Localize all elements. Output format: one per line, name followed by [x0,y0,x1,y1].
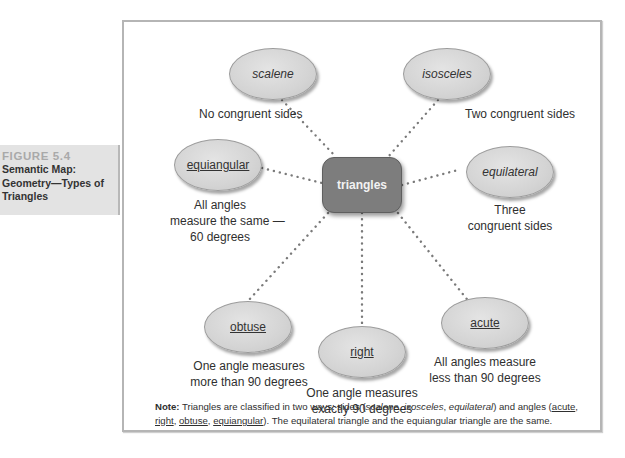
description-line: Three [460,202,560,218]
node-description: All angles measure less than 90 degrees [425,354,545,386]
center-node-triangles: triangles [322,157,402,213]
connector-isosceles [388,100,438,157]
node-description: All angles measure the same — 60 degrees [170,197,270,245]
node-label: equiangular [187,158,250,172]
center-node-label: triangles [337,178,387,192]
node-label: obtuse [230,320,266,334]
description-line: All angles [170,197,270,213]
node-description: One angle measures more than 90 degrees [186,358,312,390]
node-equiangular: equiangular [174,139,262,191]
description-line: 60 degrees [170,229,270,245]
description-line: One angle measures [186,358,312,374]
description-line: measure the same — [170,213,270,229]
description-line: Two congruent sides [465,106,575,122]
description-line: All angles measure [425,354,545,370]
description-line: One angle measures [298,385,426,401]
node-acute: acute [441,297,529,349]
connector-equiangular [262,168,322,183]
node-obtuse: obtuse [204,301,292,353]
description-line: less than 90 degrees [425,370,545,386]
node-right: right [318,326,406,378]
node-label: equilateral [482,165,537,179]
node-description: Two congruent sides [465,106,575,122]
node-description: No congruent sides [199,106,302,122]
description-line: congruent sides [460,218,560,234]
note-paragraph: Note: Triangles are classified in two wa… [155,400,595,427]
connector-equilateral [402,170,458,185]
note-label: Note: [155,401,180,412]
description-line: more than 90 degrees [186,374,312,390]
node-label: scalene [252,67,293,81]
description-line: No congruent sides [199,106,302,122]
node-label: acute [470,316,499,330]
node-label: right [350,345,373,359]
node-equilateral: equilateral [466,146,554,198]
node-description: Three congruent sides [460,202,560,234]
node-label: isosceles [422,67,471,81]
node-scalene: scalene [229,48,317,100]
node-isosceles: isosceles [403,48,491,100]
